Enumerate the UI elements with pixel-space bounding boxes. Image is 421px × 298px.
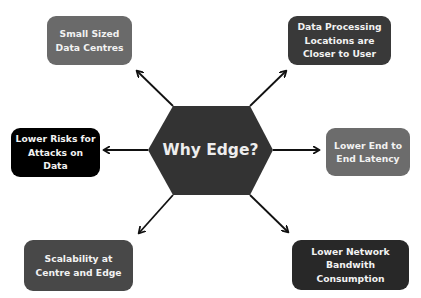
benefit-scalability: Scalability at Centre and Edge [24,240,133,291]
hub-label: Why Edge? [148,135,273,165]
benefit-label: Small Sized Data Centres [56,27,124,54]
benefit-small-sized-data-centres: Small Sized Data Centres [47,16,132,65]
benefit-lower-bandwidth: Lower Network Bandwith Consumption [292,240,409,290]
benefit-label: Scalability at Centre and Edge [35,252,121,279]
benefit-label: Lower Risks for Attacks on Data [15,132,96,172]
arrow-top-left [137,71,173,106]
benefit-label: Lower End to End Latency [334,139,402,166]
benefit-label: Data Processing Locations are Closer to … [297,20,381,60]
benefit-lower-risks: Lower Risks for Attacks on Data [11,128,100,177]
benefit-lower-latency: Lower End to End Latency [326,128,410,176]
arrow-bottom-left [139,195,173,233]
benefit-data-processing-closer: Data Processing Locations are Closer to … [288,16,391,65]
arrow-top-right [250,71,286,106]
benefit-label: Lower Network Bandwith Consumption [296,245,405,285]
arrow-bottom-right [250,195,288,232]
